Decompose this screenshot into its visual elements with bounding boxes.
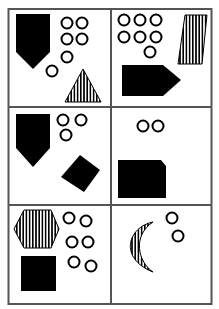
circle-group-icon bbox=[167, 213, 184, 242]
pentagon-shield-icon bbox=[16, 14, 50, 69]
cell-r3-c2 bbox=[130, 213, 183, 273]
striped-triangle-icon bbox=[65, 69, 101, 102]
cell-r1-c1 bbox=[16, 14, 101, 102]
pentagon-shield-icon bbox=[16, 114, 50, 167]
striped-hexagon-icon bbox=[14, 210, 59, 248]
striped-parallelogram-icon bbox=[178, 15, 207, 64]
cell-r1-c2 bbox=[119, 15, 208, 97]
cell-r2-c1 bbox=[16, 114, 100, 192]
circle-group-icon bbox=[47, 18, 88, 77]
rotated-square-icon bbox=[61, 155, 100, 192]
clipped-rectangle-icon bbox=[118, 160, 166, 198]
circle-group-icon bbox=[119, 15, 162, 58]
arrow-pentagon-icon bbox=[122, 65, 181, 96]
circle-group-icon bbox=[58, 115, 87, 141]
circle-group-icon bbox=[64, 213, 97, 272]
cell-r3-c1 bbox=[14, 210, 97, 291]
cell-r2-c2 bbox=[118, 121, 166, 199]
striped-crescent-icon bbox=[130, 222, 153, 272]
solid-square-icon bbox=[21, 256, 56, 291]
puzzle-figure bbox=[0, 0, 219, 309]
circle-group-icon bbox=[138, 121, 164, 132]
